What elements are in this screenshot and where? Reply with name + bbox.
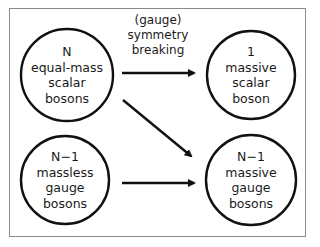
node-line: bosons [206, 196, 296, 212]
node-n1-massless-gauge: N−1 massless gauge bosons [20, 149, 110, 211]
edge-label-line: symmetry [113, 28, 203, 43]
node-line: scalar [206, 75, 296, 91]
node-line: gauge [20, 180, 110, 196]
node-line: equal-mass [22, 60, 112, 76]
node-line: massive [206, 60, 296, 76]
node-line: 1 [206, 44, 296, 60]
edge-label-line: (gauge) [113, 13, 203, 28]
node-n-equal-mass-scalar: N equal-mass scalar bosons [22, 44, 112, 106]
node-line: massless [20, 165, 110, 181]
symmetry-breaking-label: (gauge) symmetry breaking [113, 13, 203, 58]
node-line: gauge [206, 180, 296, 196]
node-n1-massive-gauge: N−1 massive gauge bosons [206, 149, 296, 211]
node-line: massive [206, 165, 296, 181]
node-line: N [22, 44, 112, 60]
edge-label-line: breaking [113, 43, 203, 58]
arrow-diagonal [123, 100, 191, 156]
node-line: bosons [20, 196, 110, 212]
node-line: N−1 [20, 149, 110, 165]
node-line: N−1 [206, 149, 296, 165]
node-line: boson [206, 91, 296, 107]
node-line: scalar [22, 75, 112, 91]
node-one-massive-scalar: 1 massive scalar boson [206, 44, 296, 106]
node-line: bosons [22, 91, 112, 107]
